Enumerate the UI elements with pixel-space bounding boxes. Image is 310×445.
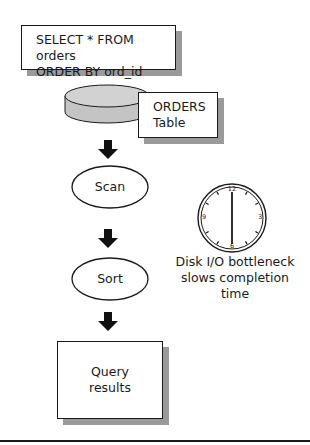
sql-line-2: ORDER BY ord_id xyxy=(36,64,175,80)
clock-number-6: 6 xyxy=(228,243,236,250)
orders-table-box: ORDERS Table xyxy=(138,92,218,138)
bottleneck-annotation: Disk I/O bottleneck slows completion tim… xyxy=(175,254,295,302)
sql-query-box: SELECT * FROM orders ORDER BY ord_id xyxy=(21,25,176,70)
annotation-line-1: Disk I/O bottleneck xyxy=(176,254,295,270)
scan-node-label: Scan xyxy=(72,179,148,195)
clock-number-9: 9 xyxy=(200,214,208,221)
sql-line-1: SELECT * FROM orders xyxy=(36,32,175,64)
arrow-down-icon xyxy=(98,140,118,159)
arrow-down-icon xyxy=(98,312,118,331)
bottom-divider xyxy=(0,440,310,442)
results-line-1: Query xyxy=(91,364,129,380)
query-results-box: Query results xyxy=(57,341,163,419)
annotation-line-2: slows completion time xyxy=(175,270,295,302)
disk-cylinder-icon xyxy=(65,85,149,123)
results-line-2: results xyxy=(89,380,131,396)
table-line-2: Table xyxy=(153,115,217,131)
arrow-down-icon xyxy=(98,229,118,248)
sort-node-label: Sort xyxy=(72,271,148,287)
table-line-1: ORDERS xyxy=(153,99,217,115)
clock-number-12: 12 xyxy=(226,186,238,193)
clock-number-3: 3 xyxy=(256,214,264,221)
